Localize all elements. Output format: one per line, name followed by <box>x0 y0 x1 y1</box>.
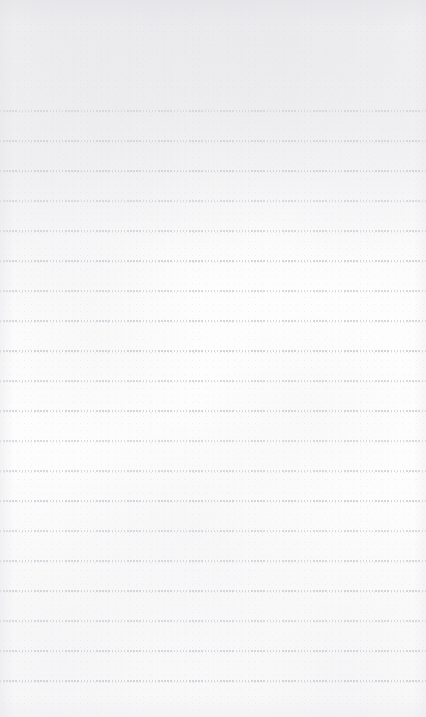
page-text-content[interactable] <box>0 0 426 717</box>
lined-paper-page <box>0 0 426 717</box>
